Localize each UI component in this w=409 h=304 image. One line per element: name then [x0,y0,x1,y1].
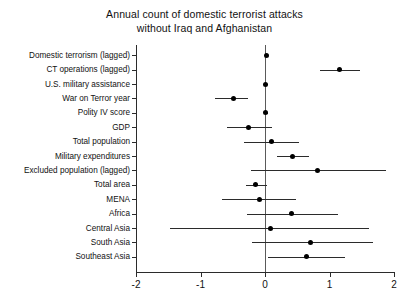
x-tick-label: 0 [245,279,285,290]
zero-reference-line [265,45,266,272]
estimate-point [290,154,295,159]
x-tick [330,272,331,277]
y-axis-label: Domestic terrorism (lagged) [0,51,130,60]
estimate-point [269,139,274,144]
x-tick [265,272,266,277]
y-axis-label: Military expenditures [0,152,130,161]
estimate-point [257,197,262,202]
x-tick [394,272,395,277]
estimate-point [304,254,309,259]
estimate-point [289,211,294,216]
plot-area: -2-1012 [136,45,394,272]
y-tick [132,170,136,171]
y-axis-label: Total area [0,180,130,189]
y-axis-label: Africa [0,209,130,218]
estimate-point [263,82,268,87]
y-tick [132,257,136,258]
y-tick [132,242,136,243]
y-axis-line [136,45,137,272]
y-axis-label: CT operations (lagged) [0,65,130,74]
y-tick [132,156,136,157]
x-tick [136,272,137,277]
y-tick [132,84,136,85]
chart-title-line-2: without Iraq and Afghanistan [0,22,409,36]
estimate-point [264,53,269,58]
y-axis-label: Central Asia [0,224,130,233]
y-axis-label: South Asia [0,238,130,247]
y-axis-label: Total population [0,137,130,146]
estimate-point [231,96,236,101]
y-axis-label: Polity IV score [0,108,130,117]
x-tick-label: 2 [374,279,409,290]
y-tick [132,185,136,186]
y-tick [132,199,136,200]
estimate-point [268,226,273,231]
x-tick [201,272,202,277]
estimate-point [315,168,320,173]
estimate-point [308,240,313,245]
y-tick [132,70,136,71]
estimate-point [253,182,258,187]
y-tick [132,127,136,128]
y-axis-label: GDP [0,123,130,132]
y-axis-label: War on Terror year [0,94,130,103]
chart-title: Annual count of domestic terrorist attac… [0,8,409,35]
estimate-point [263,110,268,115]
y-tick [132,214,136,215]
y-axis-label: Excluded population (lagged) [0,166,130,175]
coefficient-plot-figure: Annual count of domestic terrorist attac… [0,0,409,304]
y-axis-label: U.S. military assistance [0,80,130,89]
y-tick [132,228,136,229]
y-tick [132,55,136,56]
estimate-point [246,125,251,130]
y-tick [132,98,136,99]
y-tick [132,113,136,114]
chart-title-line-1: Annual count of domestic terrorist attac… [0,8,409,22]
x-tick-label: 1 [310,279,350,290]
x-tick-label: -2 [116,279,156,290]
x-tick-label: -1 [181,279,221,290]
y-axis-label: MENA [0,195,130,204]
estimate-point [337,67,342,72]
y-tick [132,142,136,143]
y-axis-label: Southeast Asia [0,252,130,261]
